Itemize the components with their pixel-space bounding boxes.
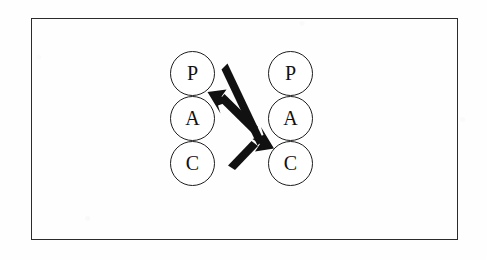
node-left-parent[interactable]: P xyxy=(170,51,215,96)
node-right-child-label: C xyxy=(284,153,297,173)
figure-canvas: P A C P A C xyxy=(0,0,487,260)
node-right-parent-label: P xyxy=(285,63,296,83)
node-left-adult-label: A xyxy=(185,108,199,128)
node-left-parent-label: P xyxy=(187,63,198,83)
node-right-parent[interactable]: P xyxy=(268,51,313,96)
node-right-adult[interactable]: A xyxy=(268,96,313,141)
node-left-child[interactable]: C xyxy=(170,141,215,186)
figure-frame xyxy=(31,18,458,240)
node-left-adult[interactable]: A xyxy=(170,96,215,141)
node-right-child[interactable]: C xyxy=(268,141,313,186)
node-right-adult-label: A xyxy=(283,108,297,128)
node-left-child-label: C xyxy=(186,153,199,173)
